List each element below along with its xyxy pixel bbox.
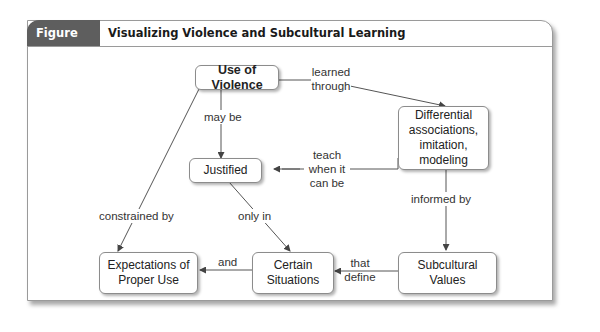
node-certain-situations: Certain Situations [252, 252, 334, 294]
node-label: Use of Violence [196, 63, 278, 93]
edge-learned-through-b [350, 86, 445, 106]
edge-label-text: and [218, 256, 237, 268]
edge-label-text: may be [204, 111, 242, 123]
node-label-line: Differential [415, 108, 472, 123]
node-label: Subcultural Values [399, 258, 496, 288]
node-use-of-violence: Use of Violence [195, 65, 279, 90]
node-label: Certain Situations [253, 258, 333, 288]
edge-label-constrained-by: constrained by [99, 209, 174, 223]
node-label-line: associations, [409, 123, 478, 138]
node-label: Expectations of Proper Use [100, 258, 197, 288]
node-label-line: imitation, [419, 138, 467, 153]
edge-constrained-by [118, 89, 199, 251]
edge-label-and: and [218, 255, 237, 269]
edge-label-text: only in [238, 210, 271, 222]
edge-label-text: constrained by [99, 210, 174, 222]
node-label-line: modeling [419, 153, 468, 168]
node-label: Justified [203, 163, 247, 178]
node-subcultural-values: Subcultural Values [398, 252, 497, 294]
edge-label-only-in: only in [238, 209, 271, 223]
node-differential-associations: Differential associations, imitation, mo… [398, 106, 489, 170]
edge-label-text: teach when it can be [309, 149, 345, 189]
node-justified: Justified [189, 158, 262, 183]
edge-label-teach-when: teach when it can be [304, 148, 350, 190]
edge-label-informed-by: informed by [411, 192, 471, 206]
node-expectations-of-proper-use: Expectations of Proper Use [99, 252, 198, 294]
edge-label-learned-through: learned through [311, 65, 351, 93]
edge-label-text: learned through [311, 66, 350, 92]
edge-label-may-be: may be [204, 110, 242, 124]
edge-label-text: informed by [411, 193, 471, 205]
edge-label-that-define: that define [342, 256, 378, 284]
edge-label-text: that define [344, 257, 375, 283]
